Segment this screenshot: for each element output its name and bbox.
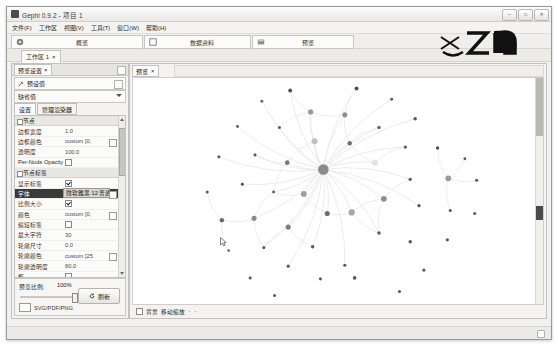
property-group-row[interactable]: 节点 <box>15 116 119 126</box>
property-row[interactable]: 缩短标签 <box>15 220 119 230</box>
menu-window[interactable]: 窗口(W) <box>117 23 139 32</box>
scroll-down-icon[interactable] <box>120 272 124 275</box>
graph-node[interactable] <box>260 100 263 103</box>
property-value[interactable]: 1.0 <box>63 128 119 134</box>
graph-node[interactable] <box>475 179 478 182</box>
group-toggle-icon[interactable] <box>17 171 23 177</box>
graph-node[interactable] <box>325 211 330 216</box>
property-value[interactable]: 微软雅黑 12 普通 <box>63 188 110 198</box>
graph-node[interactable] <box>347 141 351 145</box>
graph-node[interactable] <box>241 183 244 186</box>
property-value[interactable]: 0.0 <box>63 242 119 248</box>
graph-node[interactable] <box>252 216 257 221</box>
export-row[interactable]: SVG/PDF/PNG <box>19 303 73 312</box>
graph-node[interactable] <box>413 117 417 121</box>
graph-node[interactable] <box>408 240 412 244</box>
background-checkbox[interactable] <box>136 308 143 315</box>
color-swatch[interactable] <box>109 212 117 220</box>
workspace-tab[interactable]: 工作区 1 × <box>21 50 61 63</box>
menu-file[interactable]: 文件(F) <box>12 23 32 32</box>
graph-node[interactable] <box>206 190 209 193</box>
preview-ratio-slider[interactable] <box>20 293 78 301</box>
mode-tab-preview[interactable]: 预览 <box>252 35 354 49</box>
property-row[interactable]: Per-Node Opacity <box>15 158 119 168</box>
graph-node[interactable] <box>381 196 387 202</box>
property-row[interactable]: 颜色custom [0, <box>15 210 119 220</box>
preset-options-icon[interactable] <box>114 80 123 89</box>
menu-workspace[interactable]: 工作区 <box>39 23 57 32</box>
graph-node[interactable] <box>311 245 315 249</box>
refresh-button[interactable]: 刷新 <box>78 288 120 304</box>
graph-node[interactable] <box>227 249 230 252</box>
graph-node[interactable] <box>409 178 412 181</box>
property-row[interactable]: 轮廓颜色custom [25 <box>15 251 119 261</box>
graph-node[interactable] <box>377 126 381 130</box>
graph-node[interactable] <box>445 175 451 181</box>
pan-zoom-dots[interactable]: · · <box>188 308 198 315</box>
graph-node[interactable] <box>301 191 307 197</box>
preview-settings-tab[interactable]: 预览设置 × <box>14 64 52 75</box>
graph-node[interactable] <box>473 212 476 215</box>
graph-node[interactable] <box>287 265 290 268</box>
property-row[interactable]: 透明度100.0 <box>15 147 119 157</box>
graph-node[interactable] <box>377 231 381 235</box>
property-list[interactable]: 节点边框宽度1.0边框颜色custom [0,透明度100.0Per-Node … <box>14 115 126 278</box>
property-group-row[interactable]: 节点标签 <box>15 168 119 178</box>
graph-node[interactable] <box>288 89 292 93</box>
graph-node[interactable] <box>353 276 357 280</box>
graph-node[interactable] <box>422 268 425 271</box>
property-value[interactable]: 30 <box>63 232 119 238</box>
graph-node[interactable] <box>308 109 313 114</box>
property-row[interactable]: 边框颜色custom [0, <box>15 137 119 147</box>
graph-node[interactable] <box>449 209 452 212</box>
scroll-up-icon[interactable] <box>120 118 124 121</box>
font-picker-icon[interactable] <box>109 191 117 199</box>
graph-node[interactable] <box>372 160 378 166</box>
color-swatch[interactable] <box>109 253 117 261</box>
workspace-tab-close-icon[interactable]: × <box>52 54 56 60</box>
minimize-button[interactable]: – <box>502 9 517 21</box>
canvas-vertical-scrollbar[interactable] <box>535 78 543 304</box>
graph-node[interactable] <box>342 112 347 117</box>
graph-node[interactable] <box>236 125 239 128</box>
status-indicator-icon[interactable] <box>537 330 545 338</box>
property-row[interactable]: 最大字符30 <box>15 230 119 240</box>
property-value[interactable]: 100.0 <box>63 149 119 155</box>
maximize-button[interactable]: □ <box>518 9 533 21</box>
preview-canvas-tab-close-icon[interactable]: × <box>151 68 155 74</box>
graph-node[interactable] <box>390 98 393 101</box>
window-controls[interactable]: – □ ✕ <box>502 9 549 21</box>
graph-node[interactable] <box>355 87 359 91</box>
graph-node[interactable] <box>404 145 407 148</box>
panel-minimize-icon[interactable] <box>117 66 126 75</box>
graph-node[interactable] <box>312 138 318 144</box>
graph-node[interactable] <box>285 160 290 165</box>
tab-renderer-manager[interactable]: 管理渲染器 <box>37 103 77 115</box>
property-list-scrollbar[interactable] <box>118 116 125 277</box>
graph-node[interactable] <box>273 294 276 297</box>
preview-settings-tab-close-icon[interactable]: × <box>44 67 48 73</box>
preset-combo[interactable]: 缺省值 <box>14 90 126 103</box>
color-swatch[interactable] <box>109 139 117 147</box>
export-icon[interactable] <box>19 303 31 312</box>
graph-node[interactable] <box>463 157 466 160</box>
graph-node[interactable] <box>220 218 224 222</box>
tab-settings[interactable]: 设置 <box>14 103 36 115</box>
mode-tab-overview[interactable]: 概览 <box>11 35 143 49</box>
menu-help[interactable]: 帮助(H) <box>146 23 166 32</box>
menu-tools[interactable]: 工具(T) <box>91 23 111 32</box>
graph-node[interactable] <box>398 290 401 293</box>
property-checkbox[interactable] <box>65 159 72 166</box>
graph-node[interactable] <box>249 276 252 279</box>
property-checkbox[interactable] <box>65 221 72 228</box>
close-button[interactable]: ✕ <box>534 9 549 21</box>
property-row[interactable]: 字体微软雅黑 12 普通 <box>15 189 119 199</box>
graph-render[interactable] <box>133 78 543 304</box>
scrollbar-thumb[interactable] <box>119 128 126 176</box>
graph-node[interactable] <box>217 155 220 158</box>
property-row[interactable]: 边框宽度1.0 <box>15 126 119 136</box>
property-checkbox[interactable] <box>65 200 72 207</box>
graph-node[interactable] <box>286 225 291 230</box>
graph-node[interactable] <box>436 146 440 150</box>
canvas-scroll-thumb[interactable] <box>536 78 543 136</box>
